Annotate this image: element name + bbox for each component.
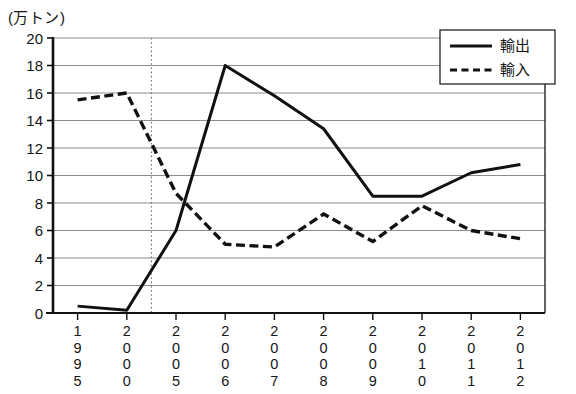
- chart-legend: 輸出 輸入: [440, 30, 555, 84]
- x-tick-digit: 8: [316, 373, 332, 390]
- x-tick-digit: 0: [414, 373, 430, 390]
- x-tick-digit: 0: [119, 373, 135, 390]
- y-tick-label: 18: [26, 57, 43, 74]
- x-tick-label: 2012: [512, 323, 528, 389]
- x-tick-digit: 0: [365, 340, 381, 357]
- y-tick-label: 0: [35, 305, 43, 322]
- x-tick-digit: 0: [316, 356, 332, 373]
- x-tick-digit: 2: [414, 323, 430, 340]
- x-tick-label: 2010: [414, 323, 430, 389]
- y-tick-label: 8: [35, 195, 43, 212]
- x-tick-digit: 7: [266, 373, 282, 390]
- x-tick-digit: 1: [512, 356, 528, 373]
- x-tick-digit: 1: [463, 373, 479, 390]
- x-tick-digit: 2: [316, 323, 332, 340]
- x-tick-digit: 9: [70, 356, 86, 373]
- x-tick-label: 2008: [316, 323, 332, 389]
- chart-plot-area: 02468101214161820 輸出 輸入: [0, 0, 576, 394]
- legend-label-import: 輸入: [500, 61, 530, 78]
- x-tick-digit: 1: [414, 356, 430, 373]
- x-tick-digit: 2: [217, 323, 233, 340]
- x-tick-label: 2009: [365, 323, 381, 389]
- x-tick-digit: 2: [365, 323, 381, 340]
- y-tick-label: 16: [26, 85, 43, 102]
- y-tick-label: 12: [26, 140, 43, 157]
- x-tick-label: 2011: [463, 323, 479, 389]
- x-tick-digit: 0: [119, 340, 135, 357]
- x-tick-label: 2005: [168, 323, 184, 389]
- x-tick-digit: 2: [512, 373, 528, 390]
- x-tick-digit: 9: [70, 340, 86, 357]
- x-tick-digit: 1: [70, 323, 86, 340]
- x-tick-digit: 0: [266, 356, 282, 373]
- legend-box: [440, 30, 555, 84]
- x-tick-digit: 0: [168, 356, 184, 373]
- y-tick-label: 4: [35, 250, 43, 267]
- x-tick-digit: 1: [463, 356, 479, 373]
- x-tick-digit: 2: [168, 323, 184, 340]
- y-tick-label: 6: [35, 222, 43, 239]
- x-tick-digit: 0: [266, 340, 282, 357]
- x-tick-digit: 0: [512, 340, 528, 357]
- x-tick-digit: 0: [316, 340, 332, 357]
- x-tick-label: 2006: [217, 323, 233, 389]
- x-tick-digit: 0: [168, 340, 184, 357]
- x-tick-digit: 5: [70, 373, 86, 390]
- y-tick-labels-group: 02468101214161820: [26, 30, 43, 322]
- data-series-group: [78, 66, 521, 311]
- x-tick-digit: 5: [168, 373, 184, 390]
- x-tick-digit: 2: [463, 323, 479, 340]
- x-tick-digit: 0: [217, 340, 233, 357]
- y-tick-label: 14: [26, 112, 43, 129]
- y-tick-label: 10: [26, 167, 43, 184]
- x-tick-digit: 6: [217, 373, 233, 390]
- x-tick-digit: 9: [365, 373, 381, 390]
- x-tick-digit: 0: [463, 340, 479, 357]
- chart-container: (万トン) 02468101214161820 輸出 輸入 1995200020…: [0, 0, 576, 394]
- y-tick-label: 2: [35, 277, 43, 294]
- legend-label-export: 輸出: [500, 37, 530, 54]
- x-tick-digit: 2: [119, 323, 135, 340]
- x-tick-digit: 2: [266, 323, 282, 340]
- x-tick-digit: 0: [119, 356, 135, 373]
- x-tick-label: 1995: [70, 323, 86, 389]
- series-line-import: [78, 93, 521, 247]
- y-tick-label: 20: [26, 30, 43, 47]
- x-tick-digit: 2: [512, 323, 528, 340]
- x-tick-label: 2007: [266, 323, 282, 389]
- x-tick-digit: 0: [217, 356, 233, 373]
- x-tick-label: 2000: [119, 323, 135, 389]
- series-line-export: [78, 66, 521, 311]
- x-tick-digit: 0: [365, 356, 381, 373]
- x-tick-digit: 0: [414, 340, 430, 357]
